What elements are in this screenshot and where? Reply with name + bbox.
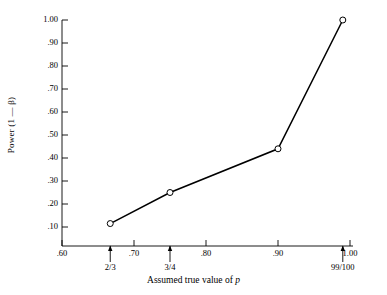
arrow-ninety-nine-hundredths-label: 99/100 bbox=[315, 262, 371, 272]
data-point-marker bbox=[340, 17, 346, 23]
x-axis-title: Assumed true value of p bbox=[0, 275, 387, 285]
y-tick-label-5: .60 bbox=[18, 106, 58, 116]
x-tick-label-2: .80 bbox=[186, 248, 226, 258]
x-tick-marks bbox=[62, 240, 350, 246]
axes bbox=[62, 20, 353, 246]
arrow-two-thirds-label: 2/3 bbox=[82, 262, 138, 272]
y-tick-label-2: .30 bbox=[18, 175, 58, 185]
y-tick-label-6: .70 bbox=[18, 83, 58, 93]
data-point-marker bbox=[275, 146, 281, 152]
power-curve-figure: Power (1 — β) Assumed true value of p .1… bbox=[0, 0, 387, 295]
x-axis-title-variable: p bbox=[235, 275, 240, 285]
y-tick-label-7: .80 bbox=[18, 60, 58, 70]
power-series-markers bbox=[107, 17, 346, 227]
x-tick-label-4: 1.00 bbox=[330, 248, 370, 258]
y-tick-label-8: .90 bbox=[18, 37, 58, 47]
y-tick-label-0: .10 bbox=[18, 221, 58, 231]
y-tick-marks bbox=[62, 20, 68, 227]
y-tick-label-1: .20 bbox=[18, 198, 58, 208]
x-tick-label-1: .70 bbox=[114, 248, 154, 258]
x-tick-label-0: .60 bbox=[42, 248, 82, 258]
y-tick-label-9: 1.00 bbox=[18, 14, 58, 24]
x-axis-title-prefix: Assumed true value of bbox=[147, 275, 235, 285]
y-tick-label-3: .40 bbox=[18, 152, 58, 162]
arrow-two-thirds bbox=[108, 246, 112, 263]
data-point-marker bbox=[167, 190, 173, 196]
y-tick-label-4: .50 bbox=[18, 129, 58, 139]
power-series-line bbox=[110, 20, 343, 224]
arrow-three-quarters-label: 3/4 bbox=[142, 262, 198, 272]
arrow-three-quarters bbox=[168, 246, 172, 263]
x-tick-label-3: .90 bbox=[258, 248, 298, 258]
data-point-marker bbox=[107, 221, 113, 227]
